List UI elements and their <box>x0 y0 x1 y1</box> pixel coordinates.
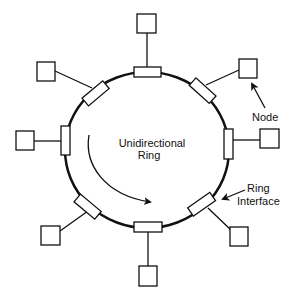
node-callout-label: Node <box>252 111 278 123</box>
ring-interface <box>61 126 70 155</box>
node <box>41 226 60 245</box>
node <box>230 227 248 246</box>
interface-callout-label-line1: Ring <box>247 182 270 194</box>
ring-interface <box>134 222 162 232</box>
token-ring-diagram: Unidirectional Ring Node Ring Interface <box>0 0 291 304</box>
node <box>16 131 34 150</box>
node <box>239 59 257 78</box>
ring-interface <box>134 67 161 77</box>
ring-interface <box>82 81 109 106</box>
center-label-line1: Unidirectional <box>119 137 186 149</box>
node <box>37 62 55 81</box>
node <box>260 129 279 148</box>
ring-interface <box>188 192 216 216</box>
center-label-line2: Ring <box>138 149 161 161</box>
ring-interface <box>224 129 233 159</box>
node-callout-arrow <box>252 84 265 108</box>
node <box>137 14 156 33</box>
interface-callout-label-line2: Interface <box>237 195 280 207</box>
ring-interface <box>74 194 101 219</box>
node <box>139 266 157 286</box>
